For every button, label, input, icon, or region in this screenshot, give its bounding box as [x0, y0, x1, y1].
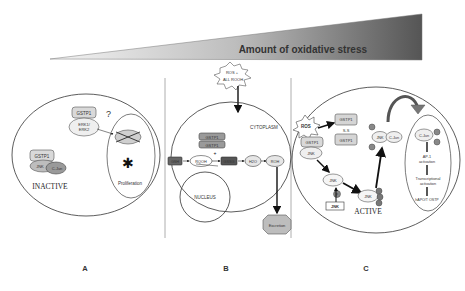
svg-text:JNK: JNK: [307, 151, 315, 156]
active-label: ACTIVE: [354, 207, 382, 216]
svg-text:AP-1: AP-1: [423, 155, 431, 159]
svg-text:GSTP1: GSTP1: [205, 143, 219, 148]
gstp1-jnk-complex-c: GSTP1 JNK: [300, 137, 323, 159]
svg-text:ERK2: ERK2: [79, 127, 90, 132]
panel-a: GSTP1 ERK1/ ERK2 ? ✱ Proliferation GSTP1…: [12, 94, 160, 216]
svg-text:activation: activation: [419, 160, 435, 164]
svg-text:GSTP1: GSTP1: [35, 154, 50, 159]
question-mark: ?: [106, 109, 111, 119]
detox-pathway: GSH RQOH + GSSG H2O ROH: [168, 150, 284, 167]
svg-text:H2O: H2O: [249, 160, 257, 164]
svg-text:RQOH: RQOH: [195, 160, 207, 164]
oxidative-stress-diagram: Amount of oxidative stress GSTP1 ERK1/ E…: [0, 0, 465, 291]
proliferation-label: Proliferation: [118, 181, 143, 186]
oxidative-stress-wedge: Amount of oxidative stress: [50, 14, 422, 60]
svg-text:GSH: GSH: [171, 160, 179, 164]
svg-text:C-Jun: C-Jun: [419, 134, 429, 138]
svg-text:C-Jun: C-Jun: [52, 166, 63, 171]
svg-text:ROS: ROS: [301, 124, 311, 129]
svg-text:JNK: JNK: [331, 204, 339, 209]
svg-text:JNK: JNK: [364, 194, 372, 199]
cytoplasm-label: CYTOPLASM: [250, 125, 278, 130]
svg-text:ALL ROOH: ALL ROOH: [223, 77, 243, 82]
svg-text:GSSG: GSSG: [224, 160, 235, 164]
panel-label-c: C: [363, 264, 369, 273]
panel-c: ROS GSTP1 S-S GSTP1 GSTP1 JNK JNK P JNK …: [292, 87, 460, 233]
gstp1-stack: GSTP1 GSTP1: [199, 133, 225, 148]
panel-label-b: B: [223, 264, 229, 273]
svg-text:ROH: ROH: [271, 160, 280, 164]
gstp1-jnk-cjun-complex: GSTP1 JNK C-Jun: [30, 150, 66, 174]
translocation-arrow: [388, 97, 418, 122]
panel-b: ROS + ALL ROOH CYTOPLASM GSTP1 GSTP1 GSH…: [168, 62, 291, 234]
svg-text:+: +: [214, 150, 217, 156]
svg-text:Transcriptional: Transcriptional: [416, 177, 441, 181]
svg-text:JNK: JNK: [376, 136, 384, 140]
blocked-icon: ✱: [122, 155, 134, 171]
svg-text:GSTP1: GSTP1: [339, 117, 353, 122]
svg-text:GSTP1: GSTP1: [305, 140, 319, 145]
svg-text:activation: activation: [420, 182, 436, 186]
svg-text:ROS +: ROS +: [226, 70, 239, 75]
svg-text:JNK: JNK: [329, 178, 337, 183]
ros-starburst-b: ROS + ALL ROOH: [214, 62, 251, 90]
gstp1-dimer: GSTP1 S-S GSTP1: [335, 114, 357, 145]
svg-text:C-Jun: C-Jun: [389, 136, 399, 140]
wedge-title: Amount of oxidative stress: [239, 44, 368, 55]
nucleus-label: NUCLEUS: [194, 195, 216, 200]
jnk-cjun-complex: JNK C-Jun: [369, 124, 402, 150]
svg-text:GSTP1: GSTP1: [339, 138, 353, 143]
svg-text:JNK: JNK: [36, 164, 44, 169]
panel-label-a: A: [82, 264, 88, 273]
svg-text:hAPO/T OSTP: hAPO/T OSTP: [415, 198, 439, 202]
svg-text:GSTP1: GSTP1: [77, 111, 92, 116]
svg-text:GSTP1: GSTP1: [205, 135, 219, 140]
svg-text:Excretion: Excretion: [269, 223, 286, 228]
inactive-label: INACTIVE: [32, 182, 68, 191]
gstp1-erk-complex: GSTP1 ERK1/ ERK2 ?: [69, 107, 113, 136]
svg-text:S-S: S-S: [343, 128, 350, 133]
